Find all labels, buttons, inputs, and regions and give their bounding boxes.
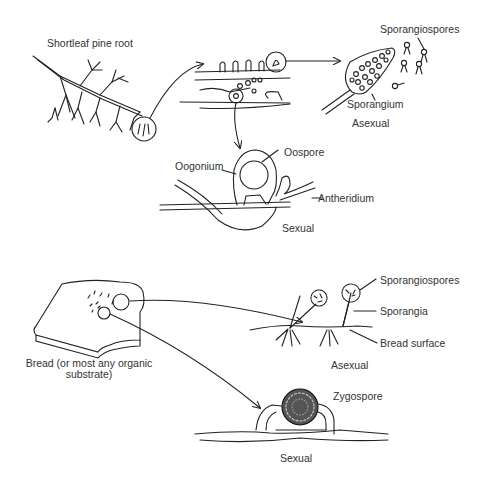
sporangia-label: Sporangia bbox=[380, 306, 428, 317]
bread-surface-label: Bread surface bbox=[380, 338, 445, 349]
pine-root-drawing bbox=[33, 56, 156, 141]
oospore-label: Oospore bbox=[284, 147, 324, 158]
sporangium-label: Sporangium bbox=[347, 99, 404, 110]
substrate-label: Bread (or most any organic substrate) bbox=[20, 358, 158, 379]
sexual-label-bottom: Sexual bbox=[280, 453, 312, 464]
antheridium-label: Antheridium bbox=[318, 193, 374, 204]
sporangiospores-label-top: Sporangiospores bbox=[380, 24, 459, 35]
sexual-label-top: Sexual bbox=[282, 223, 314, 234]
oogonium-label: Oogonium bbox=[175, 161, 223, 172]
substrate-label-line2: substrate) bbox=[66, 368, 113, 380]
asexual-label-top: Asexual bbox=[352, 118, 389, 129]
bread-drawing bbox=[34, 280, 144, 358]
asexual-label-bottom: Asexual bbox=[331, 360, 368, 371]
sporangiospores-label-bottom: Sporangiospores bbox=[380, 275, 459, 286]
root-label: Shortleaf pine root bbox=[47, 38, 133, 49]
zygospore-label: Zygospore bbox=[333, 391, 383, 402]
infected-tissue-drawing bbox=[180, 52, 290, 109]
sporangia-drawing bbox=[250, 279, 377, 346]
